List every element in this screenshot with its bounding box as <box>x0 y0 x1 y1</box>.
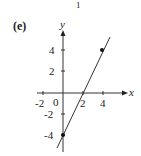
x-tick-label: 2 <box>80 98 86 109</box>
data-point <box>61 133 65 137</box>
x-tick-label: 0 <box>53 97 59 108</box>
x-axis-arrow-icon <box>122 91 128 96</box>
chart-plot <box>0 0 141 156</box>
data-point <box>100 48 104 52</box>
x-tick-label: 4 <box>100 98 106 109</box>
y-axis-arrow-icon <box>61 30 66 36</box>
x-tick-label: -2 <box>35 98 44 109</box>
y-tick-label: -2 <box>44 109 53 120</box>
y-tick-label: -4 <box>44 130 53 141</box>
y-tick-label: 4 <box>49 45 55 56</box>
y-tick-label: 2 <box>49 66 55 77</box>
